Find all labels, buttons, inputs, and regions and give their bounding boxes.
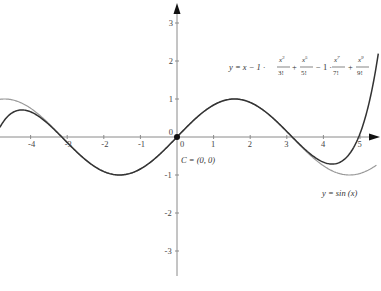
y-axis-arrow-icon	[174, 3, 181, 14]
y-tick-label: 3	[169, 18, 173, 28]
svg-text:x3: x3	[278, 55, 285, 64]
y-tick-label: -3	[165, 246, 172, 256]
x-tick-label: -4	[28, 139, 36, 149]
chart-canvas: -4-3-2-1012345-3-2-10123 C = (0, 0) y = …	[0, 0, 381, 291]
y-tick-label: 2	[169, 56, 173, 66]
svg-text:x5: x5	[301, 55, 308, 64]
x-tick-label: -2	[101, 139, 108, 149]
svg-text:3!: 3!	[278, 69, 284, 77]
taylor-op-3: +	[348, 62, 353, 72]
sin-curve-label: y = sin (x)	[321, 188, 357, 198]
y-tick-label: -1	[165, 170, 172, 180]
taylor-op-2: − 1 ·	[316, 62, 332, 72]
y-tick-label: -2	[165, 208, 172, 218]
x-tick-label: 1	[211, 139, 215, 149]
taylor-term-2: x5 5!	[300, 55, 313, 77]
x-tick-label: 5	[358, 139, 362, 149]
taylor-op-1: +	[292, 62, 297, 72]
taylor-term-1: x3 3!	[277, 55, 290, 77]
x-tick-label: 2	[248, 139, 252, 149]
y-tick-label: 1	[169, 94, 173, 104]
taylor-lhs: y = x − 1 ·	[228, 62, 265, 72]
svg-text:x7: x7	[333, 55, 340, 64]
svg-text:7!: 7!	[333, 69, 339, 77]
svg-text:x9: x9	[357, 55, 364, 64]
x-tick-label: -1	[138, 139, 145, 149]
x-tick-label: 3	[284, 139, 288, 149]
point-c[interactable]	[174, 134, 180, 140]
svg-text:5!: 5!	[301, 69, 307, 77]
taylor-formula-label: y = x − 1 · x3 3! + x5 5! − 1 · x7 7! + …	[228, 55, 369, 77]
x-axis-arrow-icon	[369, 134, 380, 141]
x-tick-label: 4	[321, 139, 326, 149]
x-tick-label: 0	[180, 139, 184, 149]
taylor-term-3: x7 7!	[332, 55, 345, 77]
y-tick-label: 0	[169, 127, 173, 137]
svg-text:9!: 9!	[357, 69, 363, 77]
point-c-label: C = (0, 0)	[181, 155, 215, 165]
taylor-term-4: x9 9!	[356, 55, 369, 77]
